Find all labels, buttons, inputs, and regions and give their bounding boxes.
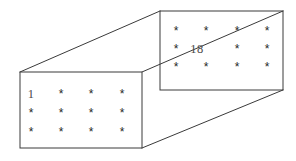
back-cell-r1c3: *	[235, 24, 240, 38]
back-cell-r3c2: *	[204, 60, 209, 74]
back-cell-r1c2: *	[204, 24, 209, 38]
edge-bottom-right-connector	[142, 90, 283, 148]
front-cell-r3c4: *	[120, 125, 125, 139]
back-cell-r3c4: *	[265, 60, 270, 74]
front-cell-r3c1: *	[29, 125, 34, 139]
edge-top-left-connector	[20, 11, 160, 72]
box-diagram-svg: * * * * * 18 * * * * * * 1 * * * * * * *	[0, 0, 296, 161]
back-cell-r2c4: *	[265, 42, 270, 56]
back-cell-r2c1: *	[174, 42, 179, 56]
back-cell-r3c1: *	[174, 60, 179, 74]
front-cell-r1c2: *	[59, 87, 64, 101]
back-cell-r1c4: *	[265, 24, 270, 38]
back-cell-r1c1: *	[174, 24, 179, 38]
front-cell-r1c4: *	[120, 87, 125, 101]
front-cell-r3c3: *	[89, 125, 94, 139]
front-cell-r1c3: *	[89, 87, 94, 101]
back-cell-r2c3: *	[235, 42, 240, 56]
box-diagram: * * * * * 18 * * * * * * 1 * * * * * * *	[0, 0, 296, 161]
front-cell-r2c1: *	[29, 106, 34, 120]
back-cell-r3c3: *	[235, 60, 240, 74]
front-cell-r3c2: *	[59, 125, 64, 139]
back-cell-r2c2-label: 18	[190, 42, 204, 56]
front-cell-r2c3: *	[89, 106, 94, 120]
front-cell-r2c2: *	[59, 106, 64, 120]
front-cell-r1c1-label: 1	[28, 87, 35, 101]
front-cell-r2c4: *	[120, 106, 125, 120]
